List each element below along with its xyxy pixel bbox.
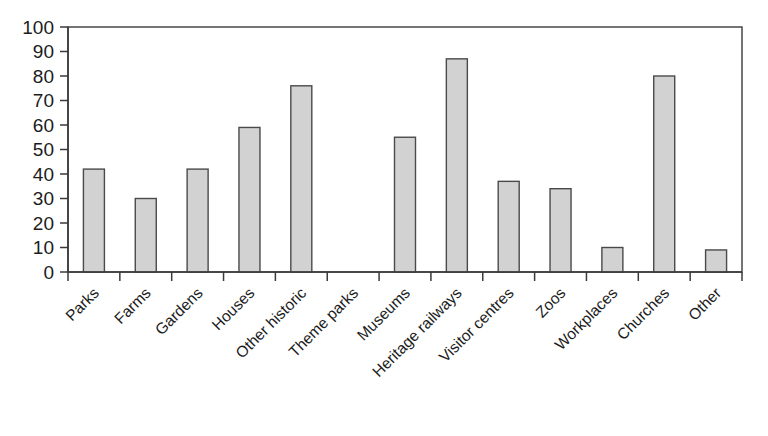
- bar: [135, 199, 156, 273]
- y-tick-label: 70: [33, 90, 54, 111]
- y-tick-label: 90: [33, 41, 54, 62]
- bar: [550, 189, 571, 272]
- bar: [706, 250, 727, 272]
- y-tick-label: 10: [33, 237, 54, 258]
- bar: [83, 169, 104, 272]
- y-tick-label: 20: [33, 213, 54, 234]
- y-tick-label: 40: [33, 164, 54, 185]
- bar: [187, 169, 208, 272]
- bar: [602, 248, 623, 273]
- bar: [654, 76, 675, 272]
- bar: [239, 127, 260, 272]
- y-tick-label: 100: [22, 17, 54, 38]
- chart-canvas: 0102030405060708090100 ParksFarmsGardens…: [0, 0, 768, 436]
- y-tick-label: 60: [33, 115, 54, 136]
- y-tick-label: 80: [33, 66, 54, 87]
- y-tick-label: 50: [33, 139, 54, 160]
- bar-chart: 0102030405060708090100 ParksFarmsGardens…: [0, 0, 768, 436]
- y-tick-label: 30: [33, 188, 54, 209]
- bar: [291, 86, 312, 272]
- y-tick-label: 0: [43, 262, 54, 283]
- bar: [446, 59, 467, 272]
- bar: [498, 181, 519, 272]
- bar: [395, 137, 416, 272]
